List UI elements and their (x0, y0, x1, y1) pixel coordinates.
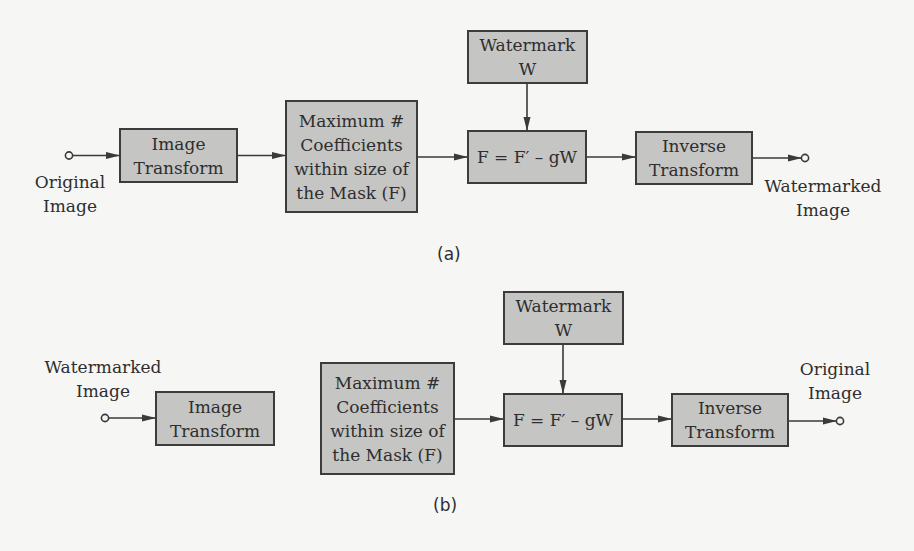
output-terminal-b (836, 417, 843, 424)
output-terminal-a (801, 154, 808, 161)
formula-box-b: F = F′ – gW (503, 393, 623, 447)
panel-a-caption: (a) (437, 244, 461, 264)
inverse-transform-box-b: Inverse Transform (671, 393, 789, 447)
input-label-b: Watermarked Image (38, 355, 168, 403)
panel-b-caption: (b) (433, 495, 457, 515)
input-label-a: Original Image (28, 170, 112, 218)
formula-box-a: F = F′ – gW (467, 130, 587, 184)
max-coefficients-box-a: Maximum # Coefficients within size of th… (285, 100, 418, 213)
connector-layer (0, 0, 914, 551)
max-coefficients-box-b: Maximum # Coefficients within size of th… (320, 362, 455, 475)
output-label-a: Watermarked Image (758, 174, 888, 222)
input-terminal-a (65, 152, 72, 159)
image-transform-box-b: Image Transform (155, 391, 275, 446)
input-terminal-b (101, 414, 108, 421)
watermark-box-b: Watermark W (503, 291, 624, 345)
inverse-transform-box-a: Inverse Transform (635, 131, 753, 185)
image-transform-box-a: Image Transform (119, 128, 238, 183)
output-label-b: Original Image (790, 357, 880, 405)
watermark-box-a: Watermark W (467, 30, 588, 84)
